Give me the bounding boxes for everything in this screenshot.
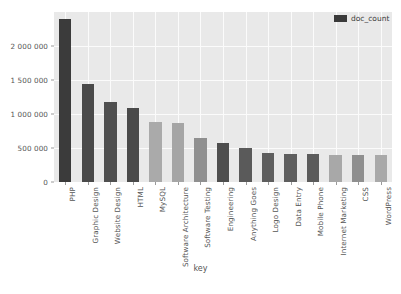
x-axis-tick-label: Engineering xyxy=(226,187,235,231)
y-axis-tick-label: 1 000 000 xyxy=(11,110,48,119)
x-axis-tick-label: Website Design xyxy=(113,187,122,244)
x-axis-tick-mark xyxy=(291,182,292,185)
x-axis-tick-label: Logo Design xyxy=(271,187,280,232)
bar xyxy=(172,123,184,182)
x-axis-tick-mark xyxy=(223,182,224,185)
plot-area xyxy=(54,12,392,182)
bar xyxy=(127,108,139,182)
bar xyxy=(59,19,71,182)
x-axis-tick-label: CSS xyxy=(361,187,370,201)
x-axis-tick-mark xyxy=(246,182,247,185)
bar xyxy=(194,138,206,182)
x-axis-tick-mark xyxy=(313,182,314,185)
bar xyxy=(82,84,94,182)
x-axis-tick-label: Graphic Design xyxy=(91,187,100,244)
x-axis-tick-label: Anything Goes xyxy=(249,187,258,241)
x-axis-tick-mark xyxy=(381,182,382,185)
y-axis-tick-label: 1 500 000 xyxy=(11,76,48,85)
bar xyxy=(284,154,296,182)
bar xyxy=(329,155,341,182)
bar xyxy=(104,102,116,182)
bar xyxy=(217,143,229,182)
bar xyxy=(262,153,274,182)
x-axis-tick-mark xyxy=(110,182,111,185)
legend-swatch-doc-count xyxy=(334,15,347,22)
x-axis-tick-label: PHP xyxy=(68,187,77,201)
x-axis-label: key xyxy=(0,264,401,273)
bar xyxy=(307,154,319,182)
legend-label-doc-count: doc_count xyxy=(351,14,389,23)
x-axis-tick-label: Internet Marketing xyxy=(339,187,348,255)
x-axis-tick-label: WordPress xyxy=(384,187,393,225)
x-axis-tick-label: Data Entry xyxy=(294,187,303,227)
x-axis-tick-label: Mobile Phone xyxy=(316,187,325,236)
bar xyxy=(149,122,161,182)
y-axis-tick-label: 0 xyxy=(43,178,48,187)
chart-legend: doc_count xyxy=(331,12,392,25)
bar-series xyxy=(54,12,392,182)
bar xyxy=(375,155,387,182)
x-axis-tick-mark xyxy=(358,182,359,185)
bar xyxy=(239,148,251,182)
x-axis-tick-mark xyxy=(178,182,179,185)
y-axis: 0500 0001 000 0001 500 0002 000 000 xyxy=(0,12,54,182)
x-axis-tick-mark xyxy=(133,182,134,185)
x-axis-tick-label: HTML xyxy=(136,187,145,207)
y-axis-tick-label: 500 000 xyxy=(18,144,48,153)
x-axis-tick-mark xyxy=(200,182,201,185)
x-axis: PHPGraphic DesignWebsite DesignHTMLMySQL… xyxy=(54,182,392,262)
x-axis-tick-label: MySQL xyxy=(158,187,167,212)
x-axis-tick-label: Software Architecture xyxy=(181,187,190,267)
bar xyxy=(352,155,364,182)
y-axis-tick-label: 2 000 000 xyxy=(11,42,48,51)
x-axis-tick-mark xyxy=(88,182,89,185)
x-axis-tick-mark xyxy=(65,182,66,185)
x-axis-tick-label: Software Testing xyxy=(203,187,212,248)
bar-chart-figure: 0500 0001 000 0001 500 0002 000 000 PHPG… xyxy=(0,0,401,294)
x-axis-tick-mark xyxy=(155,182,156,185)
x-axis-tick-mark xyxy=(336,182,337,185)
x-axis-tick-mark xyxy=(268,182,269,185)
